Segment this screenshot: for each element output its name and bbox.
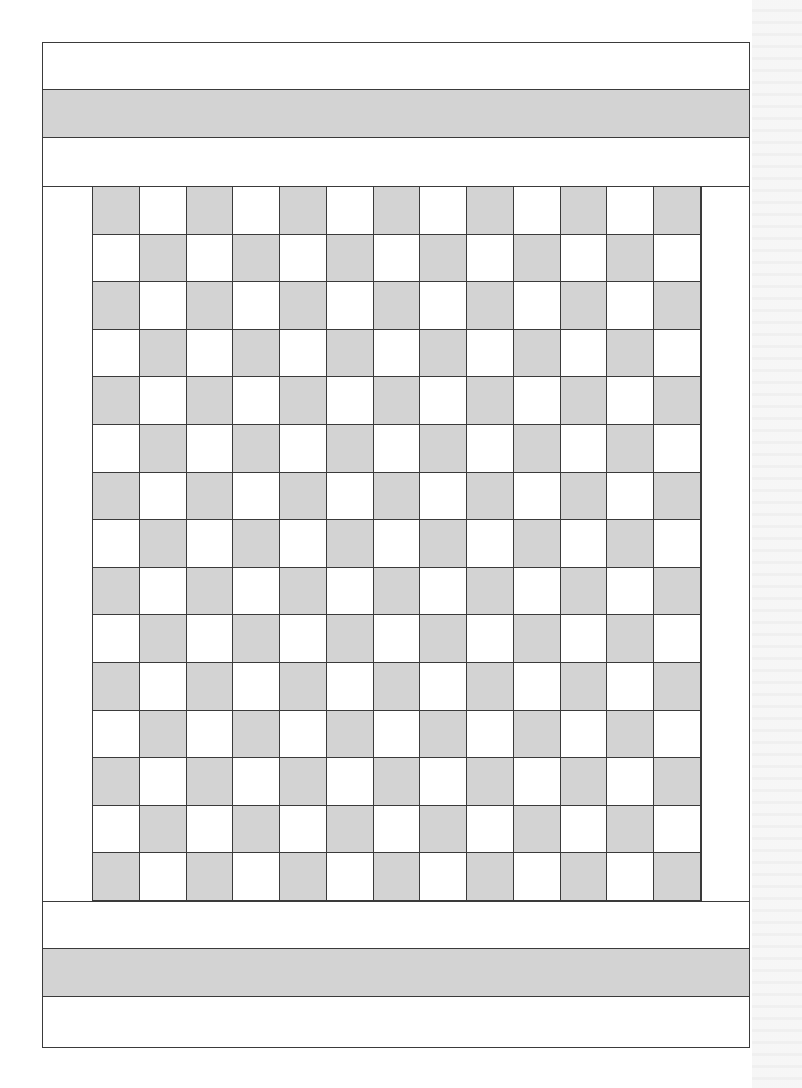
grid-square bbox=[654, 473, 701, 521]
grid-square bbox=[467, 425, 514, 473]
grid-square bbox=[561, 473, 608, 521]
grid-square bbox=[420, 806, 467, 854]
grid-square bbox=[654, 330, 701, 378]
grid-square bbox=[514, 187, 561, 235]
grid-square bbox=[187, 520, 234, 568]
grid-square bbox=[233, 758, 280, 806]
grid-square bbox=[140, 282, 187, 330]
grid-square bbox=[654, 520, 701, 568]
grid-square bbox=[654, 187, 701, 235]
grid-square bbox=[374, 615, 421, 663]
grid-square bbox=[327, 853, 374, 901]
bottom-band-2 bbox=[43, 949, 749, 997]
grid-square bbox=[514, 425, 561, 473]
grid-square bbox=[140, 806, 187, 854]
grid-square bbox=[233, 473, 280, 521]
grid-square bbox=[374, 330, 421, 378]
checkerboard-center bbox=[92, 187, 702, 901]
grid-square bbox=[561, 235, 608, 283]
grid-square bbox=[93, 711, 140, 759]
grid-square bbox=[280, 425, 327, 473]
grid-square bbox=[280, 330, 327, 378]
grid-square bbox=[233, 806, 280, 854]
grid-square bbox=[327, 520, 374, 568]
grid-square bbox=[93, 663, 140, 711]
grid-square bbox=[374, 235, 421, 283]
grid-square bbox=[327, 615, 374, 663]
grid-square bbox=[607, 663, 654, 711]
grid-square bbox=[467, 187, 514, 235]
grid-square bbox=[654, 711, 701, 759]
grid-square bbox=[93, 615, 140, 663]
grid-square bbox=[561, 377, 608, 425]
grid-square bbox=[187, 187, 234, 235]
grid-square bbox=[280, 853, 327, 901]
grid-square bbox=[654, 663, 701, 711]
grid-square bbox=[327, 377, 374, 425]
grid-square bbox=[233, 520, 280, 568]
grid-square bbox=[187, 663, 234, 711]
grid-square bbox=[327, 187, 374, 235]
grid-square bbox=[561, 330, 608, 378]
grid-square bbox=[561, 282, 608, 330]
grid-square bbox=[327, 235, 374, 283]
grid-square bbox=[140, 187, 187, 235]
facing-page-bleed-through bbox=[752, 0, 802, 1088]
grid-square bbox=[140, 758, 187, 806]
grid-square bbox=[374, 187, 421, 235]
grid-square bbox=[187, 330, 234, 378]
grid-square bbox=[514, 853, 561, 901]
grid-square bbox=[327, 330, 374, 378]
grid-square bbox=[467, 711, 514, 759]
grid-square bbox=[187, 853, 234, 901]
grid-square bbox=[140, 473, 187, 521]
grid-square bbox=[607, 806, 654, 854]
grid-square bbox=[280, 473, 327, 521]
grid-square bbox=[514, 806, 561, 854]
grid-square bbox=[280, 187, 327, 235]
grid-square bbox=[654, 758, 701, 806]
grid-square bbox=[374, 758, 421, 806]
grid-square bbox=[140, 615, 187, 663]
grid-square bbox=[374, 520, 421, 568]
grid-square bbox=[607, 615, 654, 663]
grid-square bbox=[514, 568, 561, 616]
grid-square bbox=[93, 473, 140, 521]
grid-square bbox=[654, 377, 701, 425]
grid-square bbox=[420, 235, 467, 283]
grid-square bbox=[420, 330, 467, 378]
grid-square bbox=[140, 377, 187, 425]
grid-square bbox=[233, 663, 280, 711]
grid-square bbox=[93, 425, 140, 473]
grid-square bbox=[233, 282, 280, 330]
grid-square bbox=[607, 235, 654, 283]
grid-square bbox=[233, 853, 280, 901]
grid-square bbox=[607, 377, 654, 425]
grid-square bbox=[467, 568, 514, 616]
grid-square bbox=[561, 520, 608, 568]
grid-square bbox=[561, 425, 608, 473]
grid-square bbox=[233, 568, 280, 616]
grid-square bbox=[187, 615, 234, 663]
grid-square bbox=[233, 711, 280, 759]
grid-square bbox=[654, 425, 701, 473]
grid-square bbox=[140, 568, 187, 616]
grid-square bbox=[561, 806, 608, 854]
grid-square bbox=[607, 568, 654, 616]
grid-square bbox=[280, 282, 327, 330]
grid-square bbox=[374, 806, 421, 854]
grid-square bbox=[514, 282, 561, 330]
grid-square bbox=[327, 711, 374, 759]
grid-square bbox=[93, 187, 140, 235]
grid-square bbox=[280, 235, 327, 283]
grid-square bbox=[280, 663, 327, 711]
grid-square bbox=[420, 187, 467, 235]
grid-square bbox=[654, 235, 701, 283]
grid-square bbox=[187, 377, 234, 425]
grid-square bbox=[514, 663, 561, 711]
grid-square bbox=[374, 377, 421, 425]
grid-square bbox=[140, 520, 187, 568]
grid-square bbox=[374, 282, 421, 330]
grid-square bbox=[420, 758, 467, 806]
grid-square bbox=[467, 473, 514, 521]
